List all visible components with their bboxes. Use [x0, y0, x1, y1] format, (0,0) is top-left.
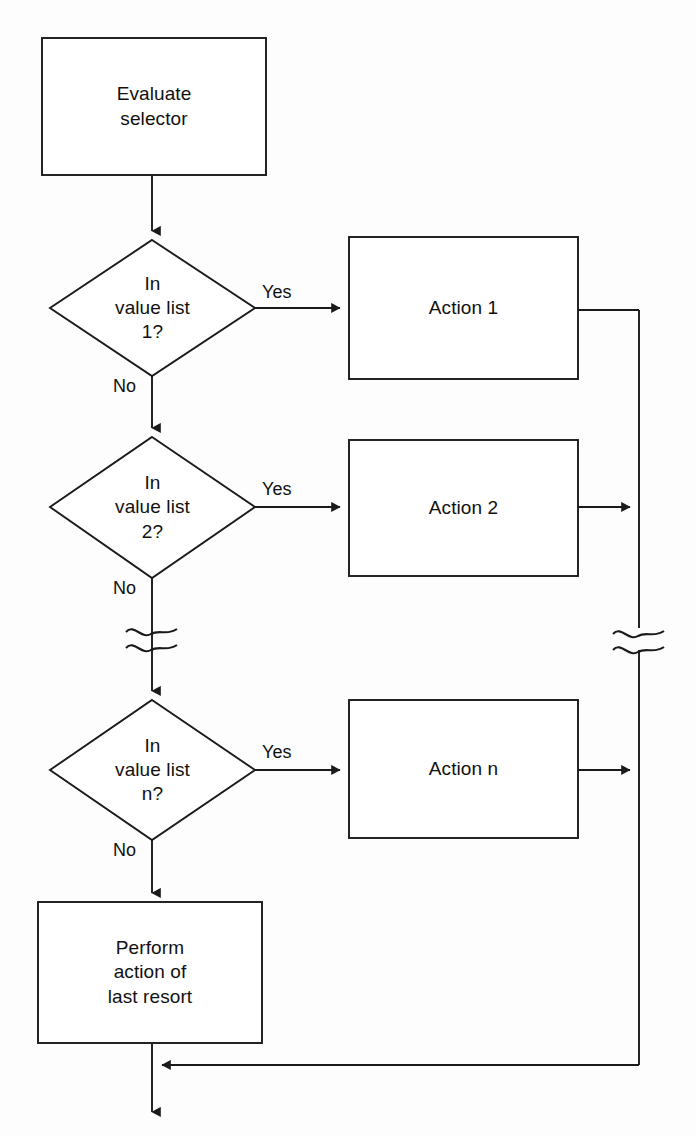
node-decision-1-shape: [50, 240, 255, 376]
node-action-1-shape: [349, 237, 578, 379]
flowchart-graphics: [0, 0, 696, 1136]
node-evaluate-selector-shape: [42, 38, 266, 175]
node-decision-n-shape: [50, 700, 255, 840]
node-action-n-shape: [349, 700, 578, 838]
break-mark-right-icon: [613, 631, 664, 653]
node-action-2-shape: [349, 440, 578, 576]
node-decision-2-shape: [50, 437, 255, 578]
flowchart-canvas: Evaluate selector In value list 1? Actio…: [0, 0, 696, 1136]
node-last-resort-shape: [38, 902, 262, 1043]
